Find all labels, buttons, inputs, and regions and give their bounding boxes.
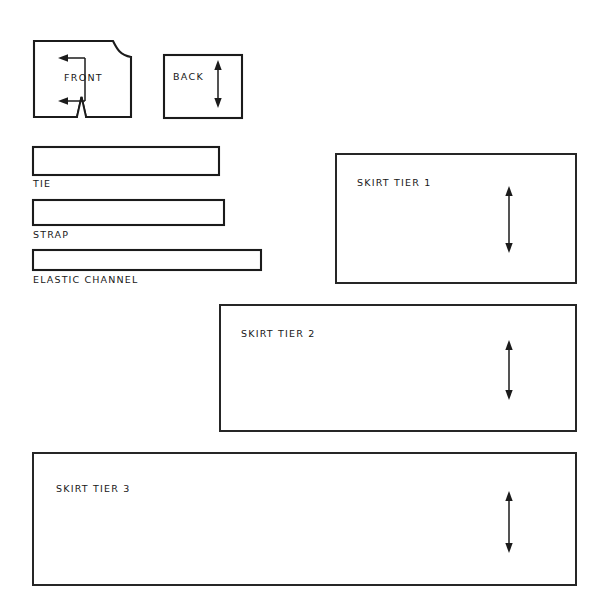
skirt-tier-2-label: SKIRT TIER 2	[241, 328, 315, 339]
pattern-piece-tie[interactable]: TIE	[32, 147, 219, 189]
skirt-tier-2-outline	[220, 305, 576, 431]
pattern-piece-elastic-channel[interactable]: ELASTIC CHANNEL	[33, 250, 261, 285]
tie-strip-label: TIE	[32, 178, 51, 189]
tie-strip-outline	[33, 147, 219, 175]
skirt-tier-3-outline	[33, 453, 576, 585]
skirt-tier-3-label: SKIRT TIER 3	[56, 483, 130, 494]
pattern-sheet: FRONT BACK TIE STRAP ELASTIC CHANNEL	[0, 0, 607, 613]
skirt-tier-1-label: SKIRT TIER 1	[357, 177, 431, 188]
back-piece-outline	[164, 55, 242, 118]
elastic-channel-strip-outline	[33, 250, 261, 270]
pattern-piece-front[interactable]: FRONT	[34, 41, 131, 117]
front-piece-label: FRONT	[64, 72, 103, 83]
pattern-piece-strap[interactable]: STRAP	[33, 200, 224, 240]
pattern-piece-skirt-tier-1[interactable]: SKIRT TIER 1	[336, 154, 576, 283]
elastic-channel-strip-label: ELASTIC CHANNEL	[33, 274, 138, 285]
strap-strip-outline	[33, 200, 224, 225]
pattern-layout-canvas: FRONT BACK TIE STRAP ELASTIC CHANNEL	[0, 0, 607, 613]
pattern-piece-back[interactable]: BACK	[164, 55, 242, 118]
back-piece-label: BACK	[173, 71, 204, 82]
skirt-tier-1-outline	[336, 154, 576, 283]
pattern-piece-skirt-tier-3[interactable]: SKIRT TIER 3	[33, 453, 576, 585]
strap-strip-label: STRAP	[33, 229, 69, 240]
pattern-piece-skirt-tier-2[interactable]: SKIRT TIER 2	[220, 305, 576, 431]
